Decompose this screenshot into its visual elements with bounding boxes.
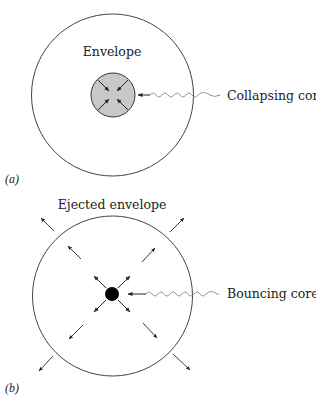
supernova-diagram: Envelope Collapsing core (a) Ejected env… <box>0 0 316 400</box>
panel-b: Ejected envelope Bounci <box>5 197 316 395</box>
wavy-pointer-icon <box>138 93 220 98</box>
bouncing-core-label: Bouncing core <box>227 286 316 301</box>
bouncing-core <box>105 287 119 301</box>
panel-label-a: (a) <box>5 172 19 186</box>
envelope-label: Envelope <box>83 44 142 59</box>
wavy-pointer-icon <box>128 292 219 297</box>
panel-a: Envelope Collapsing core (a) <box>5 14 316 186</box>
collapsing-core-label: Collapsing core <box>227 88 316 103</box>
panel-label-b: (b) <box>5 381 19 395</box>
ejected-envelope-label: Ejected envelope <box>58 197 167 212</box>
collapsing-core <box>91 73 135 117</box>
